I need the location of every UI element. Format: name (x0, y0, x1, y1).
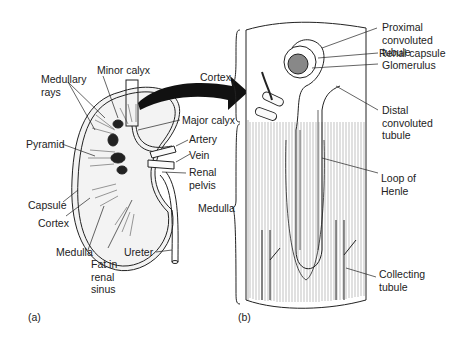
label-line: pelvis (189, 179, 216, 192)
label-line: Medullary (41, 73, 87, 86)
panel-a-tag: (a) (28, 311, 41, 324)
label-renal-pelvis: Renal pelvis (189, 166, 216, 191)
label-loop-of-henle: Loop of Henle (381, 172, 416, 197)
label-line: Collecting (379, 268, 425, 281)
label-line: sinus (91, 283, 117, 296)
label-vein: Vein (189, 149, 209, 162)
label-minor-calyx: Minor calyx (97, 64, 150, 77)
label-artery: Artery (189, 133, 217, 146)
label-medulla-a: Medulla (56, 246, 93, 259)
panel-b-tag: (b) (238, 311, 251, 324)
label-line: Henle (381, 185, 416, 198)
label-medullary-rays: Medullary rays (41, 73, 87, 98)
label-line: renal (91, 271, 117, 284)
label-pyramid: Pyramid (26, 138, 65, 151)
label-line: rays (41, 86, 87, 99)
nephron-illustration (232, 22, 378, 308)
label-line: tubule (379, 281, 425, 294)
label-line: Renal (189, 166, 216, 179)
label-medulla-b: Medulla (198, 202, 235, 215)
label-ureter: Ureter (124, 246, 153, 259)
label-fat-in-renal-sinus: Fat in renal sinus (91, 258, 117, 296)
label-line: Fat in (91, 258, 117, 271)
label-major-calyx: Major calyx (182, 114, 235, 127)
label-line: Distal (382, 104, 433, 117)
kidney-illustration (62, 76, 190, 271)
label-cortex-b: Cortex (200, 71, 231, 84)
label-line: convoluted (382, 117, 433, 130)
label-line: Loop of (381, 172, 416, 185)
label-line: tubule (382, 129, 433, 142)
label-distal-convoluted-tubule: Distal convoluted tubule (382, 104, 433, 142)
label-glomerulus: Glomerulus (382, 59, 436, 72)
label-capsule: Capsule (28, 199, 67, 212)
label-cortex-a: Cortex (38, 217, 69, 230)
label-line: Proximal (382, 21, 464, 34)
label-collecting-tubule: Collecting tubule (379, 268, 425, 293)
label-renal-capsule: Renal capsule (379, 47, 446, 60)
